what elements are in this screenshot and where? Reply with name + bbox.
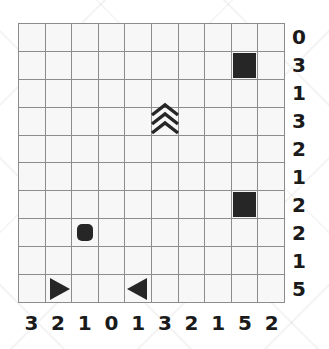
grid-cell[interactable] [179, 108, 206, 136]
grid-cell[interactable] [99, 80, 126, 108]
grid-cell[interactable] [179, 24, 206, 52]
grid-cell[interactable] [232, 108, 259, 136]
grid-cell[interactable] [232, 24, 259, 52]
grid-cell[interactable] [125, 219, 152, 247]
grid-cell[interactable] [19, 219, 46, 247]
grid-cell[interactable] [258, 24, 285, 52]
grid-cell[interactable] [152, 219, 179, 247]
grid-cell[interactable] [232, 136, 259, 164]
grid-cell[interactable] [232, 275, 259, 303]
grid-cell[interactable] [205, 191, 232, 219]
grid-cell[interactable] [179, 275, 206, 303]
grid-cell[interactable] [258, 191, 285, 219]
grid-cell[interactable] [72, 191, 99, 219]
grid-cell[interactable] [46, 247, 73, 275]
grid-cell[interactable] [19, 191, 46, 219]
grid-cell[interactable] [125, 24, 152, 52]
grid-cell[interactable] [72, 247, 99, 275]
grid-cell[interactable] [258, 219, 285, 247]
grid-cell[interactable] [179, 191, 206, 219]
grid-cell[interactable] [205, 108, 232, 136]
puzzle-grid[interactable] [18, 23, 285, 303]
grid-cell[interactable] [232, 52, 259, 80]
grid-cell[interactable] [46, 136, 73, 164]
grid-cell[interactable] [258, 275, 285, 303]
grid-cell[interactable] [72, 52, 99, 80]
grid-cell[interactable] [19, 163, 46, 191]
grid-cell[interactable] [46, 52, 73, 80]
grid-cell[interactable] [72, 80, 99, 108]
grid-cell[interactable] [205, 163, 232, 191]
grid-cell[interactable] [99, 247, 126, 275]
grid-cell[interactable] [99, 191, 126, 219]
grid-cell[interactable] [19, 275, 46, 303]
grid-cell[interactable] [99, 163, 126, 191]
grid-cell[interactable] [72, 163, 99, 191]
grid-cell[interactable] [232, 219, 259, 247]
grid-cell[interactable] [232, 163, 259, 191]
grid-cell[interactable] [258, 108, 285, 136]
grid-cell[interactable] [152, 191, 179, 219]
grid-cell[interactable] [205, 219, 232, 247]
grid-cell[interactable] [99, 275, 126, 303]
grid-cell[interactable] [232, 80, 259, 108]
grid-cell[interactable] [19, 52, 46, 80]
grid-cell[interactable] [72, 136, 99, 164]
grid-cell[interactable] [179, 136, 206, 164]
grid-cell[interactable] [205, 52, 232, 80]
grid-cell[interactable] [205, 136, 232, 164]
grid-cell[interactable] [205, 80, 232, 108]
grid-cell[interactable] [125, 80, 152, 108]
grid-cell[interactable] [232, 247, 259, 275]
grid-cell[interactable] [179, 163, 206, 191]
grid-cell[interactable] [19, 24, 46, 52]
grid-cell[interactable] [152, 24, 179, 52]
grid-cell[interactable] [72, 275, 99, 303]
grid-cell[interactable] [258, 247, 285, 275]
grid-cell[interactable] [152, 52, 179, 80]
grid-cell[interactable] [125, 52, 152, 80]
grid-cell[interactable] [19, 80, 46, 108]
grid-cell[interactable] [125, 108, 152, 136]
grid-cell[interactable] [19, 108, 46, 136]
grid-cell[interactable] [152, 108, 179, 136]
grid-cell[interactable] [179, 247, 206, 275]
grid-cell[interactable] [46, 191, 73, 219]
grid-cell[interactable] [125, 163, 152, 191]
grid-cell[interactable] [125, 191, 152, 219]
grid-cell[interactable] [258, 52, 285, 80]
grid-cell[interactable] [99, 136, 126, 164]
grid-cell[interactable] [179, 52, 206, 80]
grid-cell[interactable] [152, 136, 179, 164]
grid-cell[interactable] [72, 219, 99, 247]
grid-cell[interactable] [179, 219, 206, 247]
grid-cell[interactable] [179, 80, 206, 108]
grid-cell[interactable] [152, 163, 179, 191]
grid-cell[interactable] [258, 136, 285, 164]
grid-cell[interactable] [46, 24, 73, 52]
grid-cell[interactable] [46, 275, 73, 303]
grid-cell[interactable] [258, 80, 285, 108]
grid-cell[interactable] [125, 275, 152, 303]
grid-cell[interactable] [46, 80, 73, 108]
grid-cell[interactable] [205, 24, 232, 52]
grid-cell[interactable] [99, 24, 126, 52]
grid-cell[interactable] [152, 247, 179, 275]
grid-cell[interactable] [72, 108, 99, 136]
grid-cell[interactable] [125, 136, 152, 164]
grid-cell[interactable] [46, 219, 73, 247]
grid-cell[interactable] [46, 163, 73, 191]
grid-cell[interactable] [205, 247, 232, 275]
grid-cell[interactable] [205, 275, 232, 303]
grid-cell[interactable] [19, 247, 46, 275]
grid-cell[interactable] [99, 219, 126, 247]
grid-cell[interactable] [99, 52, 126, 80]
grid-cell[interactable] [125, 247, 152, 275]
grid-cell[interactable] [232, 191, 259, 219]
grid-cell[interactable] [258, 163, 285, 191]
grid-cell[interactable] [72, 24, 99, 52]
grid-cell[interactable] [19, 136, 46, 164]
grid-cell[interactable] [152, 275, 179, 303]
grid-cell[interactable] [46, 108, 73, 136]
grid-cell[interactable] [99, 108, 126, 136]
